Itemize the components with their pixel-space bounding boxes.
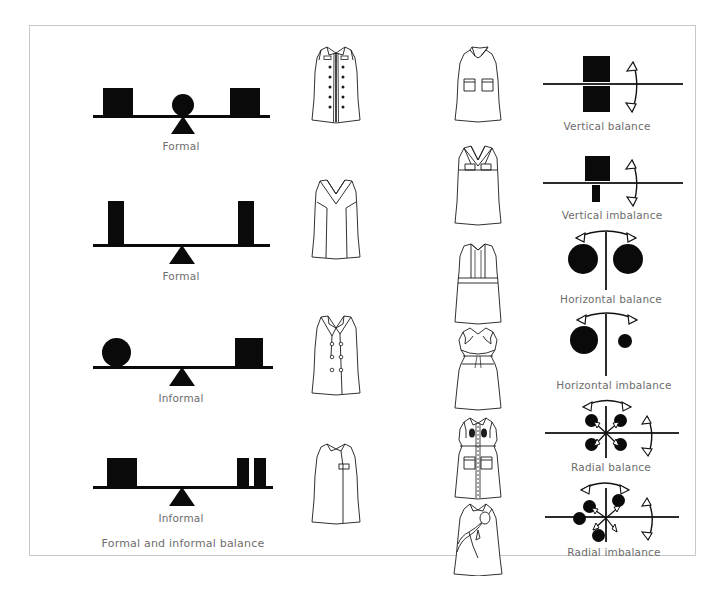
arrow-vertical-double <box>631 490 665 548</box>
arrow-horizontal-double <box>575 392 639 416</box>
shape-circle-right <box>613 244 643 274</box>
dress-asymmetric-buckle-dress <box>305 442 367 528</box>
principle-radial-imbalance: Radial imbalance <box>535 472 725 560</box>
principle-vertical-balance: Vertical balance <box>535 48 725 148</box>
arrow-vertical-double <box>631 408 665 464</box>
balance-scale-formal-2: Formal <box>75 191 285 291</box>
shape-square-bottom <box>583 86 610 112</box>
fulcrum-triangle <box>169 245 195 264</box>
dress-center-front-zip-dress <box>305 44 367 129</box>
weight-bar-right-b <box>254 458 266 486</box>
arrow-horizontal-double <box>569 304 649 330</box>
principle-horizontal-balance: Horizontal balance <box>535 216 725 308</box>
weight-square-right <box>230 88 260 115</box>
balance-scale-informal-1: Informal <box>75 316 285 416</box>
principle-horizontal-imbalance: Horizontal imbalance <box>535 298 725 394</box>
balance-scales-column: Formal Formal Informal Informal Forma <box>75 26 290 555</box>
balance-scale-formal-1: Formal <box>75 66 285 166</box>
dress-crossover-bodice-dress <box>305 178 367 264</box>
balance-scale-label: Informal <box>158 392 203 404</box>
arrow-vertical-double <box>613 50 653 122</box>
shape-bar-bottom <box>592 185 600 202</box>
balance-scales-section-caption: Formal and informal balance <box>102 537 265 550</box>
shape-square-top <box>583 56 610 82</box>
shape-circle-large-left <box>570 326 598 354</box>
shape-square-top <box>585 156 610 181</box>
dress-pleated-bib-dress <box>447 242 509 328</box>
dress-double-breasted-dress <box>305 314 367 400</box>
figure-frame: Formal Formal Informal Informal Forma <box>29 25 696 556</box>
principle-label: Radial imbalance <box>567 546 660 558</box>
weight-bar-left <box>108 201 124 247</box>
arrow-horizontal-double <box>567 222 647 248</box>
weight-bar-right <box>238 201 254 247</box>
fulcrum-triangle <box>169 487 195 506</box>
principle-radial-balance: Radial balance <box>535 388 725 476</box>
dress-column-b <box>425 26 535 555</box>
dress-collared-pocket-dress <box>447 44 509 126</box>
dress-pocket-front-shirtdress <box>447 416 509 502</box>
shape-circle-left <box>568 244 598 274</box>
balance-scale-informal-2: Informal Formal and informal balance <box>75 436 285 546</box>
dress-crossed-strap-dress <box>447 144 509 230</box>
balance-principles-column: Vertical balance Vertical imbalance <box>535 26 697 555</box>
shape-circle-small-right <box>618 334 632 348</box>
dress-column-a <box>285 26 395 555</box>
weight-square-left <box>103 88 133 115</box>
dress-ruffle-yoke-dress <box>447 326 509 412</box>
fulcrum-triangle <box>169 367 195 386</box>
fulcrum-triangle <box>171 116 195 134</box>
arrow-vertical-double <box>613 150 653 216</box>
arrow-horizontal-double <box>573 474 637 498</box>
fulcrum-circle <box>172 94 194 116</box>
balance-scale-label: Informal <box>158 512 203 524</box>
weight-square-right <box>235 338 263 367</box>
balance-scale-label: Formal <box>162 140 199 152</box>
dress-asymmetric-drape-dress <box>447 502 509 576</box>
weight-square-left <box>107 458 137 486</box>
balance-scale-label: Formal <box>162 270 199 282</box>
weight-bar-right-a <box>237 458 249 486</box>
principle-label: Vertical balance <box>563 120 650 132</box>
weight-circle-left <box>102 338 131 367</box>
